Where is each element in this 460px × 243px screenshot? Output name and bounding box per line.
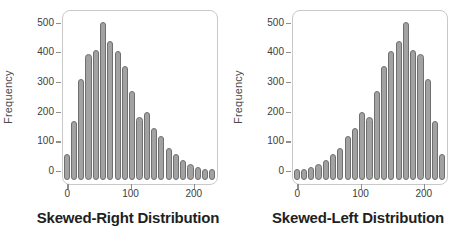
bar bbox=[180, 160, 186, 180]
bar bbox=[202, 169, 208, 180]
bar bbox=[122, 66, 128, 179]
bar bbox=[100, 22, 106, 180]
bar bbox=[417, 54, 423, 179]
y-axis-label: Frequency bbox=[0, 10, 15, 185]
y-tick-label: 400 bbox=[248, 46, 284, 58]
bar bbox=[107, 41, 113, 180]
y-tick-mark bbox=[286, 23, 291, 24]
x-tick-label: 200 bbox=[415, 188, 432, 200]
bar bbox=[78, 79, 84, 179]
y-tick-label: 300 bbox=[248, 76, 284, 88]
y-tick-label: 100 bbox=[248, 135, 284, 147]
bar bbox=[315, 164, 321, 179]
bar bbox=[323, 160, 329, 180]
y-tick-label: 400 bbox=[18, 46, 54, 58]
bars-container bbox=[293, 11, 447, 184]
chart-title: Skewed-Left Distribution bbox=[230, 209, 460, 226]
x-tick-label: 0 bbox=[65, 188, 71, 200]
bar bbox=[308, 167, 314, 179]
bar bbox=[425, 79, 431, 179]
bar bbox=[71, 121, 77, 179]
y-tick-label: 100 bbox=[18, 135, 54, 147]
bar bbox=[381, 66, 387, 179]
chart-skewed-right: Frequency 01002003004005000100200 Skewed… bbox=[0, 0, 230, 243]
y-tick-label: 0 bbox=[18, 165, 54, 177]
bar bbox=[85, 54, 91, 179]
y-tick-mark bbox=[286, 112, 291, 113]
bar bbox=[345, 136, 351, 180]
plot-row: Frequency 01002003004005000100200 bbox=[0, 0, 230, 185]
bar bbox=[366, 117, 372, 180]
y-tick-mark bbox=[286, 141, 291, 142]
bar bbox=[432, 121, 438, 179]
bar bbox=[396, 41, 402, 180]
y-tick-mark bbox=[56, 112, 61, 113]
y-tick-label: 200 bbox=[18, 106, 54, 118]
plot-frame bbox=[62, 10, 218, 185]
bar bbox=[388, 51, 394, 179]
bar bbox=[195, 167, 201, 179]
bar bbox=[93, 50, 99, 180]
y-tick-mark bbox=[56, 82, 61, 83]
bar bbox=[410, 50, 416, 180]
chart-title: Skewed-Right Distribution bbox=[0, 209, 230, 226]
plot-row: Frequency 01002003004005000100200 bbox=[230, 0, 460, 185]
x-tick-label: 100 bbox=[122, 188, 139, 200]
y-tick-label: 500 bbox=[248, 17, 284, 29]
bar bbox=[294, 169, 300, 180]
bar bbox=[439, 154, 445, 180]
bar bbox=[136, 117, 142, 180]
chart-skewed-left: Frequency 01002003004005000100200 Skewed… bbox=[230, 0, 460, 243]
y-tick-mark bbox=[286, 171, 291, 172]
bar bbox=[374, 91, 380, 179]
y-tick-label: 200 bbox=[248, 106, 284, 118]
y-tick-mark bbox=[56, 23, 61, 24]
x-tick-label: 0 bbox=[295, 188, 301, 200]
y-tick-mark bbox=[286, 82, 291, 83]
bar bbox=[330, 154, 336, 180]
y-tick-label: 300 bbox=[18, 76, 54, 88]
y-tick-mark bbox=[56, 52, 61, 53]
bars-container bbox=[63, 11, 217, 184]
bar bbox=[144, 112, 150, 179]
bar bbox=[403, 22, 409, 180]
x-tick-label: 200 bbox=[185, 188, 202, 200]
bar bbox=[64, 154, 70, 180]
y-tick-mark bbox=[286, 52, 291, 53]
bar bbox=[166, 148, 172, 180]
bar bbox=[301, 169, 307, 180]
y-axis-label: Frequency bbox=[230, 10, 245, 185]
bar bbox=[158, 136, 164, 180]
histogram-figure: Frequency 01002003004005000100200 Skewed… bbox=[0, 0, 460, 243]
bar bbox=[209, 169, 215, 180]
bar bbox=[352, 128, 358, 179]
bar bbox=[129, 91, 135, 179]
y-tick-label: 500 bbox=[18, 17, 54, 29]
bar bbox=[359, 112, 365, 179]
bar bbox=[151, 128, 157, 179]
y-tick-label: 0 bbox=[248, 165, 284, 177]
bar bbox=[173, 154, 179, 180]
bar bbox=[115, 51, 121, 179]
bar bbox=[337, 148, 343, 180]
y-tick-mark bbox=[56, 141, 61, 142]
plot-frame bbox=[292, 10, 448, 185]
bar bbox=[187, 164, 193, 179]
x-tick-label: 100 bbox=[352, 188, 369, 200]
y-tick-mark bbox=[56, 171, 61, 172]
